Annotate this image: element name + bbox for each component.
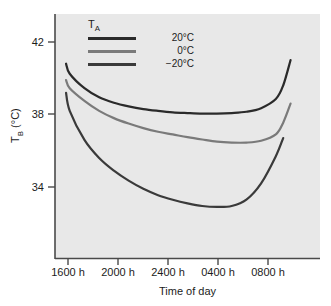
y-tick-label-42: 42 [18, 36, 44, 48]
legend-title-base: T [88, 18, 95, 30]
legend-item-minus20c: −20°C [88, 58, 198, 71]
y-tick-marks [48, 42, 55, 187]
y-tick-label-34: 34 [18, 181, 44, 193]
x-axis-label: Time of day [55, 285, 320, 297]
x-tick-label-0800: 0800 h [239, 266, 297, 278]
legend-label-0c: 0°C [138, 45, 194, 56]
data-series-group [66, 60, 291, 207]
y-axis-label-base: T [9, 136, 21, 143]
y-axis-label: TB (°C) [9, 91, 24, 161]
legend-swatch-minus20c [88, 63, 136, 66]
legend-swatch-0c [88, 50, 136, 53]
legend-title: TA [88, 18, 100, 33]
legend-item-20c: 20°C [88, 32, 198, 45]
legend-item-0c: 0°C [88, 45, 198, 58]
y-axis-label-sub: B [16, 131, 25, 136]
series-line-0c [66, 80, 291, 143]
legend-label-20c: 20°C [138, 32, 194, 43]
figure-container: 42 38 34 TB (°C) 1600 h 2000 h 2400 h 04… [0, 0, 331, 306]
legend-swatch-20c [88, 37, 136, 40]
legend: TA 20°C 0°C −20°C [88, 18, 198, 68]
legend-label-minus20c: −20°C [138, 58, 194, 69]
y-axis-label-unit: (°C) [9, 108, 21, 131]
